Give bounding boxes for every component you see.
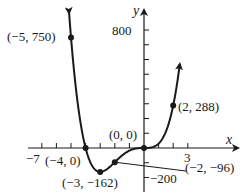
leader-line <box>115 162 186 171</box>
data-point <box>97 169 103 175</box>
data-point <box>170 103 176 109</box>
point-label-2-288: (2, 288) <box>178 99 219 114</box>
data-point <box>83 145 89 151</box>
y-axis-ticks <box>144 30 149 178</box>
point-label-neg5-750: (−5, 750) <box>7 29 56 44</box>
function-graph: y x 800 −200 −7 3 (−5, 750) (−4, 0) (−3,… <box>0 0 246 196</box>
point-label-neg4-0: (−4, 0) <box>45 153 81 168</box>
labeled-points <box>68 34 176 175</box>
y-axis-label: y <box>131 3 140 18</box>
point-label-neg3-neg162: (−3, −162) <box>62 175 118 190</box>
data-point <box>68 34 74 40</box>
data-point <box>141 145 147 151</box>
x-axis-ticks <box>42 143 188 148</box>
y-tick-label-800: 800 <box>112 23 132 38</box>
x-tick-label-neg7: −7 <box>26 151 40 166</box>
point-label-0-0: (0, 0) <box>109 127 137 142</box>
x-axis-label: x <box>225 132 233 147</box>
data-point <box>112 159 118 165</box>
y-tick-label-neg200: −200 <box>150 171 177 186</box>
point-label-neg2-neg96: (−2, −96) <box>185 160 234 175</box>
